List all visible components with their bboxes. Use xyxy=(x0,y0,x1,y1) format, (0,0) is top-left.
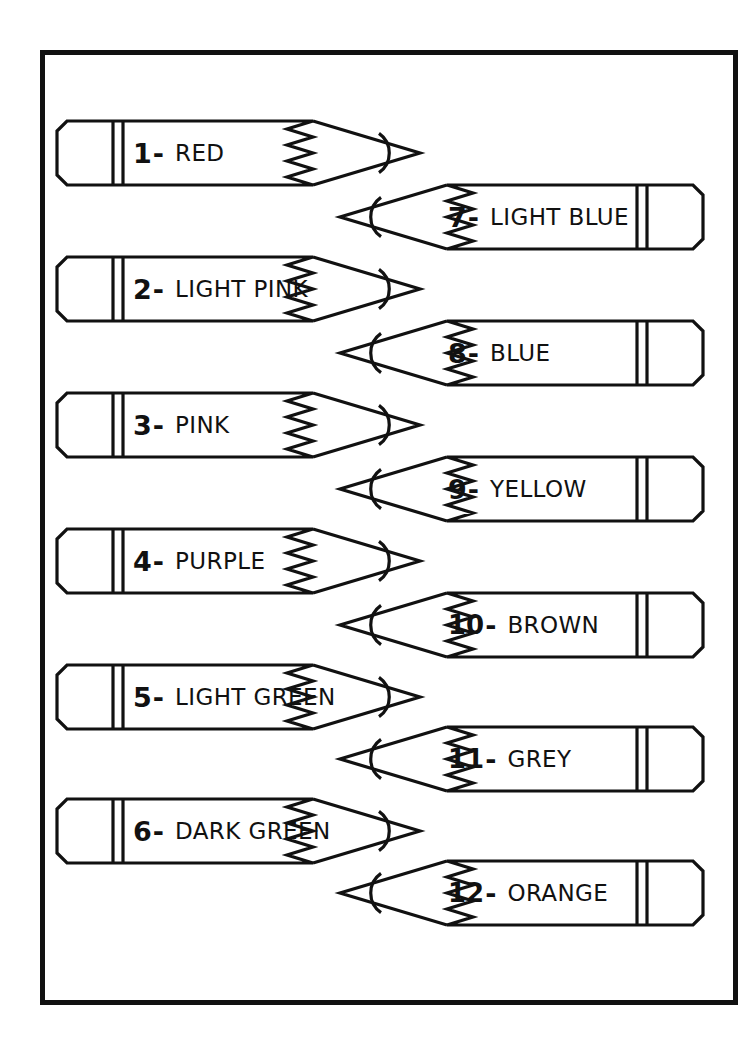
pencil-color-name-4: PURPLE xyxy=(175,548,265,574)
pencil-number-11: 11 xyxy=(448,744,484,774)
pencil-label-5: 5-LIGHT GREEN xyxy=(133,662,336,732)
pencil-label-12: 12-ORANGE xyxy=(448,858,608,928)
pencil-8: 8-BLUE xyxy=(340,318,705,388)
pencil-label-3: 3-PINK xyxy=(133,390,230,460)
pencil-number-8: 8 xyxy=(448,338,467,369)
pencil-number-3: 3 xyxy=(133,410,152,441)
pencil-color-name-3: PINK xyxy=(175,412,230,438)
pencil-label-2: 2-LIGHT PINK xyxy=(133,254,308,324)
pencil-dash-4: - xyxy=(153,546,164,577)
pencil-color-name-11: GREY xyxy=(507,746,571,772)
pencil-color-name-10: BROWN xyxy=(507,612,599,638)
pencil-label-1: 1-RED xyxy=(133,118,224,188)
pencil-number-4: 4 xyxy=(133,546,152,577)
pencil-11: 11-GREY xyxy=(340,724,705,794)
pencil-number-7: 7 xyxy=(448,202,467,233)
pencil-dash-8: - xyxy=(468,338,479,369)
pencil-dash-2: - xyxy=(153,274,164,305)
pencil-label-9: 9-YELLOW xyxy=(448,454,587,524)
pencil-dash-7: - xyxy=(468,202,479,233)
pencil-color-name-5: LIGHT GREEN xyxy=(175,684,336,710)
pencil-outline-1 xyxy=(55,118,420,188)
pencil-color-name-1: RED xyxy=(175,140,224,166)
pencil-dash-10: - xyxy=(485,610,496,641)
pencil-label-6: 6-DARK GREEN xyxy=(133,796,331,866)
pencil-number-12: 12 xyxy=(448,878,484,908)
pencil-4: 4-PURPLE xyxy=(55,526,420,596)
pencil-label-8: 8-BLUE xyxy=(448,318,550,388)
pencil-dash-3: - xyxy=(153,410,164,441)
pencil-dash-11: - xyxy=(485,744,496,775)
pencil-label-10: 10-BROWN xyxy=(448,590,599,660)
pencil-dash-1: - xyxy=(153,138,164,169)
pencil-number-10: 10 xyxy=(448,610,484,640)
pencil-label-4: 4-PURPLE xyxy=(133,526,265,596)
pencil-dash-5: - xyxy=(153,682,164,713)
pencil-2: 2-LIGHT PINK xyxy=(55,254,420,324)
pencil-3: 3-PINK xyxy=(55,390,420,460)
pencil-10: 10-BROWN xyxy=(340,590,705,660)
pencil-number-9: 9 xyxy=(448,474,467,505)
pencil-number-6: 6 xyxy=(133,816,152,847)
pencil-color-name-2: LIGHT PINK xyxy=(175,276,308,302)
pencil-dash-6: - xyxy=(153,816,164,847)
pencil-color-name-6: DARK GREEN xyxy=(175,818,331,844)
pencil-5: 5-LIGHT GREEN xyxy=(55,662,420,732)
pencil-dash-9: - xyxy=(468,474,479,505)
pencil-number-5: 5 xyxy=(133,682,152,713)
pencil-dash-12: - xyxy=(485,878,496,909)
pencil-color-name-12: ORANGE xyxy=(507,880,608,906)
pencil-color-name-7: LIGHT BLUE xyxy=(490,204,629,230)
pencil-6: 6-DARK GREEN xyxy=(55,796,420,866)
worksheet-page: 1-RED2-LIGHT PINK3-PINK4-PURPLE5-LIGHT G… xyxy=(0,0,748,1052)
pencil-1: 1-RED xyxy=(55,118,420,188)
pencil-number-2: 2 xyxy=(133,274,152,305)
pencil-outline-3 xyxy=(55,390,420,460)
pencil-color-name-8: BLUE xyxy=(490,340,550,366)
pencil-label-11: 11-GREY xyxy=(448,724,571,794)
pencil-color-name-9: YELLOW xyxy=(490,476,587,502)
pencil-label-7: 7-LIGHT BLUE xyxy=(448,182,629,252)
pencil-number-1: 1 xyxy=(133,138,152,169)
pencil-12: 12-ORANGE xyxy=(340,858,705,928)
pencil-9: 9-YELLOW xyxy=(340,454,705,524)
pencil-7: 7-LIGHT BLUE xyxy=(340,182,705,252)
